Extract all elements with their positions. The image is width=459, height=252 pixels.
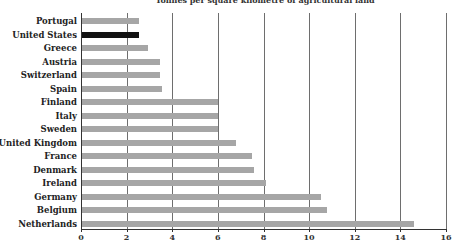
category-label: Spain [50, 84, 77, 94]
bar [82, 207, 327, 213]
bar [82, 194, 321, 200]
x-tick-label: 0 [71, 232, 91, 242]
category-label: Belgium [37, 205, 77, 215]
x-tick-label: 16 [436, 232, 456, 242]
category-label: Switzerland [21, 70, 77, 80]
x-tick-label: 10 [299, 232, 319, 242]
category-label: Greece [44, 43, 77, 53]
bar [82, 221, 414, 227]
bar [82, 113, 218, 119]
category-label: Denmark [33, 165, 77, 175]
x-tick-label: 2 [117, 232, 137, 242]
x-tick-label: 12 [345, 232, 365, 242]
category-label: France [44, 151, 77, 161]
gridline [400, 13, 401, 229]
bar [82, 72, 160, 78]
category-label: Portugal [36, 16, 77, 26]
category-label: Germany [34, 192, 77, 202]
category-label: Netherlands [18, 219, 77, 229]
bar [82, 45, 148, 51]
category-label: Italy [55, 111, 77, 121]
bar [82, 180, 266, 186]
bar [82, 18, 139, 24]
x-tick-label: 6 [208, 232, 228, 242]
category-label: United Kingdom [0, 138, 77, 148]
bar [82, 126, 218, 132]
bar [82, 59, 160, 65]
category-label: Sweden [41, 124, 77, 134]
x-tick-label: 4 [162, 232, 182, 242]
bar [82, 99, 218, 105]
bar [82, 153, 252, 159]
category-label: United States [12, 30, 77, 40]
x-tick-label: 8 [254, 232, 274, 242]
bar [82, 86, 162, 92]
bar [82, 32, 139, 38]
category-label: Finland [41, 97, 77, 107]
gridline [355, 13, 356, 229]
gridline [446, 13, 447, 229]
chart-title: Tonnes per square kilometre of agricultu… [0, 0, 459, 5]
bar [82, 140, 236, 146]
category-label: Austria [42, 57, 77, 67]
category-label: Ireland [42, 178, 77, 188]
x-tick-label: 14 [390, 232, 410, 242]
bar [82, 167, 254, 173]
